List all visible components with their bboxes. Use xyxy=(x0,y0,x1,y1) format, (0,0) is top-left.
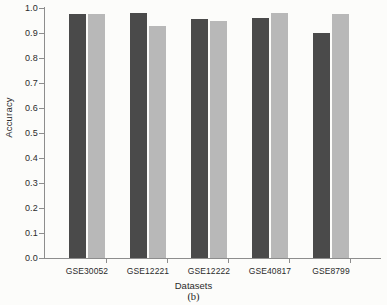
bar-GSE12222-series-b xyxy=(210,21,227,259)
x-tick-mark xyxy=(106,259,107,263)
plot-area xyxy=(44,8,380,258)
x-tick-mark xyxy=(228,259,229,263)
x-axis-line xyxy=(44,258,381,259)
bar-GSE12222-series-a xyxy=(191,19,208,258)
y-tick-label: 0.5 xyxy=(4,129,38,138)
y-tick-label: 0.7 xyxy=(4,79,38,88)
x-axis-title: Datasets xyxy=(0,280,387,291)
y-tick-label: 0.1 xyxy=(4,229,38,238)
y-tick-label: 0.8 xyxy=(4,54,38,63)
y-tick-label: 0.2 xyxy=(4,204,38,213)
figure-subcaption: (b) xyxy=(0,291,387,302)
y-tick-label: 0.0 xyxy=(4,254,38,263)
bar-GSE8799-series-a xyxy=(313,33,330,258)
y-tick-label: 0.9 xyxy=(4,29,38,38)
y-axis-title: Accuracy xyxy=(3,83,14,153)
bar-chart-figure: Accuracy 0.00.10.20.30.40.50.60.70.80.91… xyxy=(0,0,387,305)
y-tick-label: 0.4 xyxy=(4,154,38,163)
bar-GSE30052-series-a xyxy=(69,14,86,258)
bar-GSE40817-series-b xyxy=(271,13,288,258)
bar-GSE30052-series-b xyxy=(88,14,105,258)
y-tick-label: 0.6 xyxy=(4,104,38,113)
x-tick-mark xyxy=(167,259,168,263)
x-tick-mark xyxy=(350,259,351,263)
x-tick-mark xyxy=(289,259,290,263)
y-tick-label: 0.3 xyxy=(4,179,38,188)
x-tick-label-GSE8799: GSE8799 xyxy=(292,266,370,276)
bar-GSE12221-series-a xyxy=(130,13,147,258)
y-tick-mark xyxy=(39,258,44,259)
y-tick-label: 1.0 xyxy=(4,4,38,13)
bar-GSE12221-series-b xyxy=(149,26,166,259)
bar-GSE8799-series-b xyxy=(332,14,349,258)
bar-GSE40817-series-a xyxy=(252,18,269,258)
